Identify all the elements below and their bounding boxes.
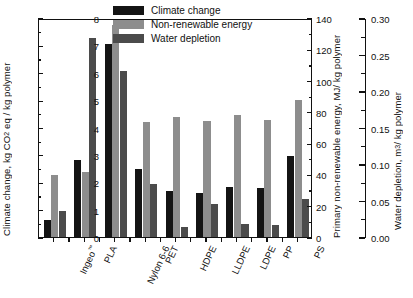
x-axis-tick-mark (297, 238, 298, 242)
right-axis-1-minor-tick (309, 222, 312, 223)
right-axis-1-tick-mark (307, 112, 312, 113)
right-axis-2-minor-tick (361, 219, 365, 220)
x-axis-label: PP (281, 244, 296, 260)
right-axis-2-title-post: / kg polymer (392, 92, 403, 145)
left-axis-minor-tick (38, 169, 41, 170)
right-axis-2-tick-mark (359, 201, 365, 202)
x-axis-tick-mark (53, 238, 54, 242)
right-axis-1-tick-mark (307, 18, 312, 19)
right-axis-2-tick-label: 0.00 (371, 233, 401, 244)
chart-legend: Climate change Non-renewable energy Wate… (113, 3, 252, 45)
bar (59, 211, 66, 237)
right-axis-1-tick-mark (307, 50, 312, 51)
left-axis-tick-mark (38, 210, 43, 211)
right-axis-1-tick-label: 20 (316, 201, 342, 212)
bar (234, 115, 241, 237)
left-axis-tick-mark (38, 237, 43, 238)
right-axis-1-tick-label: 80 (316, 107, 342, 118)
chart-figure: Climate change, kg CO2 eq / kg polymer P… (0, 0, 413, 298)
bar-group (287, 20, 309, 237)
bar (287, 156, 294, 237)
right-axis-1-minor-tick (309, 159, 312, 160)
left-axis-minor-tick (38, 59, 41, 60)
bar (105, 44, 112, 237)
x-axis-tick-mark (114, 238, 115, 242)
right-axis-2-tick-mark (359, 237, 365, 238)
x-axis-label: HDPE (197, 244, 218, 273)
legend-item: Non-renewable energy (113, 17, 252, 31)
left-axis-tick-mark (38, 18, 43, 19)
bar-group (166, 20, 188, 237)
x-axis-tick-mark (145, 238, 146, 242)
right-axis-1-tick-mark (307, 175, 312, 176)
bar-group (196, 20, 218, 237)
right-axis-2-minor-tick (361, 37, 365, 38)
bar (295, 100, 302, 237)
left-axis-minor-tick (38, 114, 41, 115)
left-axis-tick-label: 3 (75, 150, 99, 161)
right-axis-2-tick-mark (359, 128, 365, 129)
right-axis-1-tick-label: 140 (316, 14, 342, 25)
bar (226, 187, 233, 237)
x-axis-tick-mark (129, 238, 130, 242)
left-axis-tick-mark (38, 46, 43, 47)
right-axis-2-minor-tick (361, 73, 365, 74)
x-axis-label: LDPE (257, 244, 277, 271)
right-axis-1-minor-tick (309, 97, 312, 98)
right-axis-2-tick-label: 0.05 (371, 196, 401, 207)
left-axis-title-sub: 2 (3, 132, 10, 136)
right-axis-2-tick-mark (359, 91, 365, 92)
bar (120, 71, 127, 237)
right-axis-2-minor-tick (361, 110, 365, 111)
right-axis-1-tick-label: 40 (316, 170, 342, 181)
bar-group (135, 20, 157, 237)
left-axis-tick-label: 2 (75, 178, 99, 189)
legend-swatch-non-renewable-energy (113, 20, 144, 29)
right-axis-1-tick-mark (307, 206, 312, 207)
legend-swatch-water-depletion (113, 34, 144, 43)
x-axis-tick-mark (99, 238, 100, 242)
left-axis-minor-tick (38, 224, 41, 225)
bar (272, 225, 279, 237)
bar (211, 204, 218, 237)
right-axis-1-tick-label: 60 (316, 139, 342, 150)
right-axis-2-tick-mark (359, 18, 365, 19)
left-axis-minor-tick (38, 196, 41, 197)
left-axis-minor-tick (38, 32, 41, 33)
x-axis-label: LLDPE (230, 244, 253, 276)
left-axis-tick-mark (38, 101, 43, 102)
left-axis-title-pre: Climate change, kg CO (1, 136, 12, 236)
right-axis-1-tick-mark (307, 144, 312, 145)
x-axis-tick-mark (236, 238, 237, 242)
left-axis-tick-label: 1 (75, 205, 99, 216)
legend-swatch-climate-change (113, 6, 144, 15)
right-axis-2-minor-tick (361, 183, 365, 184)
bar (173, 117, 180, 237)
bar-group (105, 20, 127, 237)
legend-label: Climate change (151, 5, 220, 16)
x-axis-tick-mark (175, 238, 176, 242)
left-axis-tick-label: 0 (75, 233, 99, 244)
bar-group (44, 20, 66, 237)
bar (135, 169, 142, 237)
left-axis-tick-label: 6 (75, 68, 99, 79)
x-axis-tick-mark (84, 238, 85, 242)
right-axis-2-minor-tick (361, 146, 365, 147)
x-axis-tick-mark (205, 238, 206, 242)
bar-group (257, 20, 279, 237)
right-axis-2-tick-label: 0.10 (371, 160, 401, 171)
bar (112, 25, 119, 237)
left-axis-title: Climate change, kg CO2 eq / kg polymer (1, 24, 12, 236)
left-axis-tick-mark (38, 128, 43, 129)
right-axis-2-spine (365, 19, 366, 238)
left-axis-title-post: eq / kg polymer (1, 63, 12, 132)
x-axis-tick-mark (190, 238, 191, 242)
right-axis-2-title-sup: 3 (394, 145, 401, 149)
left-axis-tick-label: 8 (75, 14, 99, 25)
right-axis-1-tick-mark (307, 81, 312, 82)
legend-item: Water depletion (113, 31, 252, 45)
bar (241, 224, 248, 237)
right-axis-2-tick-label: 0.30 (371, 14, 401, 25)
bar (74, 160, 81, 237)
left-axis-tick-mark (38, 183, 43, 184)
